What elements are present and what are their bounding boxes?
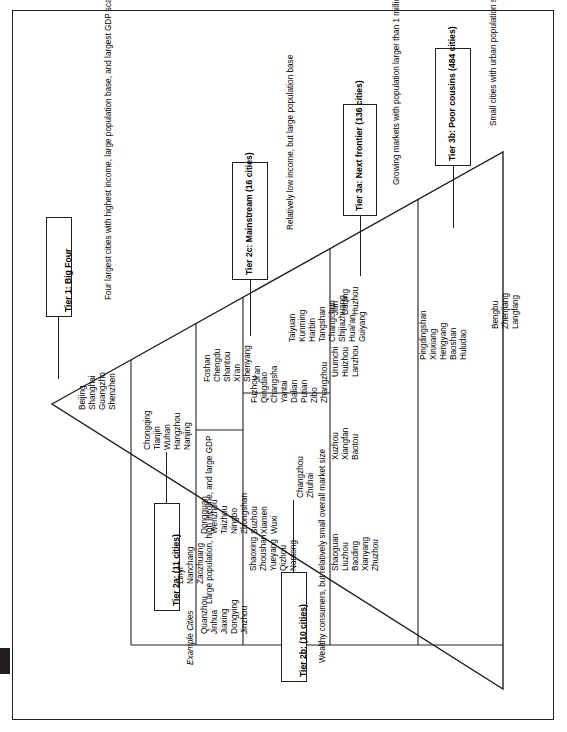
city-item: Xinxiang: [429, 329, 439, 360]
city-item: Xiamen: [260, 506, 270, 534]
city-item: Shaoxing: [249, 537, 259, 571]
city-item: Foshan: [203, 355, 213, 382]
city-item: Jiaxing: [220, 609, 230, 635]
city-item: Wuxi: [270, 516, 280, 534]
connector-tier2a: [166, 452, 167, 503]
city-item: Guiyang: [358, 312, 368, 343]
tier-description-tier3a: Growing markets with population larger t…: [392, 105, 402, 185]
city-item: Liuzhou: [341, 542, 351, 571]
city-item: Pingdingshan: [419, 310, 429, 360]
city-item: Suzhou: [250, 506, 260, 534]
city-item: Guangzho: [98, 372, 108, 410]
city-item: Qizhou: [279, 545, 289, 571]
city-item: Beijing: [78, 385, 88, 410]
diagram-page: Tier 1: Big Four Four largest cities wit…: [0, 0, 567, 732]
city-item: Jinhua: [210, 610, 220, 634]
city-item: Lanzhou: [351, 346, 361, 377]
tier-description-tier2c: Relatively low income, but large populat…: [286, 152, 296, 230]
tier-box-label-tier2c: Tier 2c: Mainstream (16 cities): [244, 152, 255, 275]
connector-tier3b: [453, 166, 454, 228]
city-item: Jinzhou: [240, 606, 250, 634]
connector-tier2c: [250, 280, 251, 336]
city-item: Shanghai: [88, 375, 98, 410]
city-item: Yantai: [280, 380, 290, 403]
city-item: Langfang: [511, 295, 521, 329]
city-item: Urumchi: [331, 347, 341, 377]
city-item: Quanzhou: [200, 596, 210, 634]
city-item: Huai'an: [348, 314, 358, 342]
city-item: Hangzhou: [173, 413, 183, 450]
city-item: Qingdao: [260, 372, 270, 403]
city-item: Nanjing: [183, 422, 193, 450]
city-item: Linyi: [176, 567, 186, 584]
city-item: Harbin: [308, 318, 318, 342]
city-item: Xi'an: [233, 364, 243, 382]
city-item: Baotou: [351, 434, 361, 460]
example-cities-caption: Example Cities: [186, 610, 196, 665]
city-item: Putian: [300, 380, 310, 403]
city-item: Zhuzhou: [371, 539, 381, 571]
city-item: Dalian: [290, 380, 300, 403]
city-item: Dongying: [230, 599, 240, 634]
city-item: Chengdu: [213, 349, 223, 382]
city-item: Wuhan: [163, 424, 173, 450]
city-item: Dongguan: [200, 496, 210, 534]
city-item: Taizhou: [220, 506, 230, 534]
city-item: Changzhou: [296, 456, 306, 498]
tier-box-tier3a[interactable]: Tier 3a: Next frontier (136 cities): [343, 104, 377, 216]
city-item: Nantong: [289, 540, 299, 571]
tier-box-label-tier3a: Tier 3a: Next frontier (136 cities): [354, 80, 365, 211]
tier-box-tier2b[interactable]: Tier 2b: (10 cities): [281, 572, 307, 682]
city-item: Xiangfan: [341, 428, 351, 460]
city-item: Zhuhai: [306, 473, 316, 498]
city-item: Xianyang: [361, 537, 371, 571]
tier-box-label-tier1: Tier 1: Big Four: [63, 249, 74, 312]
city-item: Chongqing: [143, 410, 153, 450]
city-item: Hengyang: [439, 323, 449, 360]
connector-tier1: [58, 317, 59, 379]
city-item: Nanchang: [186, 547, 196, 584]
city-item: Shaoguan: [331, 534, 341, 571]
city-item: Jilin: [331, 301, 341, 315]
city-item: Yueyang: [269, 539, 279, 571]
city-item: Zhenjiang: [501, 293, 511, 329]
city-item: Zhoushan: [259, 535, 269, 571]
tier-box-tier2a[interactable]: Tier 2a: (11 cities): [154, 503, 180, 611]
tier-description-tier1: Four largest cities with highest income,…: [104, 200, 114, 300]
tier-box-label-tier3b: Tier 3b: Poor cousins (484 cities): [447, 26, 458, 161]
city-item: Shantou: [223, 351, 233, 382]
city-item: Daqing: [341, 289, 351, 315]
city-item: Tangshan: [318, 306, 328, 342]
city-item: Tianjin: [153, 426, 163, 450]
city-item: Baoshan: [449, 328, 459, 360]
tier-box-tier2c[interactable]: Tier 2c: Mainstream (16 cities): [232, 162, 268, 280]
tier-box-tier1[interactable]: Tier 1: Big Four: [46, 217, 72, 317]
city-item: Zhangzhou: [320, 362, 330, 403]
tier-description-tier2b: Wealthy consumers, but relatively small …: [318, 567, 328, 663]
tier-box-tier3b[interactable]: Tier 3b: Poor cousins (484 cities): [435, 48, 471, 166]
city-item: Fuzhou: [250, 376, 260, 403]
city-item: Baoding: [351, 541, 361, 571]
city-item: Wenzhou: [210, 500, 220, 534]
city-item: Xuzhou: [331, 432, 341, 460]
city-item: Zaozhuang: [196, 543, 206, 584]
tier-description-tier3b: Small cities with urban population small…: [489, 34, 499, 126]
city-item: Shenzhen: [108, 373, 118, 410]
city-item: Huizhou: [341, 347, 351, 377]
city-item: Zibo: [310, 387, 320, 403]
city-item: Bengbu: [491, 301, 501, 329]
connector-tier3a: [360, 216, 361, 276]
tier-box-label-tier2b: Tier 2b: (10 cities): [298, 604, 309, 677]
city-item: Zhongshan: [240, 493, 250, 534]
city-item: Changsha: [270, 366, 280, 403]
city-item: Kunming: [298, 310, 308, 342]
city-item: Ningbo: [230, 508, 240, 534]
city-item: Huzhou: [351, 287, 361, 315]
city-item: Huludao: [459, 330, 469, 361]
city-item: Taiyuan: [288, 314, 298, 342]
